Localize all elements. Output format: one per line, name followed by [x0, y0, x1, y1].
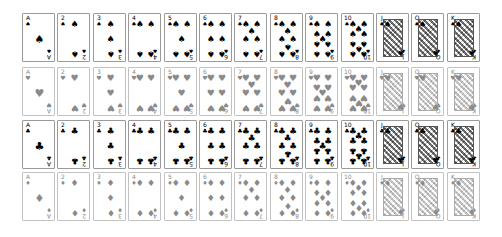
clubs-icon: ♣ [177, 141, 187, 150]
clubs-icon: ♣ [106, 156, 116, 165]
card-a-of-hearts: A♥A♥♥ [22, 67, 55, 116]
corner-index-bot: 2♣ [81, 155, 87, 167]
hearts-icon: ♥ [468, 102, 475, 110]
hearts-icon: ♥ [106, 103, 116, 112]
hearts-icon: ♥ [171, 73, 181, 82]
diamonds-icon: ♦ [359, 188, 369, 197]
card-4-of-spades: 4♠4♠♠♠♠♠ [128, 13, 161, 62]
hearts-icon: ♥ [384, 75, 391, 83]
corner-index-top: A♦ [25, 174, 31, 186]
spades-icon: ♠ [106, 19, 116, 28]
hearts-icon: ♥ [323, 73, 333, 82]
spades-icon: ♠ [177, 34, 187, 43]
clubs-icon: ♣ [397, 155, 404, 163]
card-j-of-spades: J♠J♠♠♠ [376, 13, 409, 62]
hearts-icon: ♥ [359, 103, 369, 112]
diamonds-icon: ♦ [35, 193, 45, 202]
hearts-icon: ♥ [419, 75, 426, 83]
spades-icon: ♠ [359, 29, 369, 38]
corner-index-top: 2♠ [60, 15, 66, 27]
hearts-icon: ♥ [312, 93, 322, 102]
diamonds-icon: ♦ [217, 208, 227, 217]
spades-icon: ♠ [81, 48, 87, 54]
hearts-icon: ♥ [217, 73, 227, 82]
spades-icon: ♠ [432, 48, 439, 56]
card-q-of-spades: Q♠Q♠♠♠ [411, 13, 444, 62]
hearts-icon: ♥ [70, 103, 80, 112]
hearts-icon: ♥ [206, 103, 216, 112]
corner-index-top: 3♦ [96, 174, 102, 186]
clubs-icon: ♣ [252, 141, 262, 150]
clubs-icon: ♣ [117, 155, 123, 161]
spades-icon: ♠ [312, 39, 322, 48]
spades-icon: ♠ [217, 19, 227, 28]
spades-icon: ♠ [46, 48, 52, 54]
diamonds-icon: ♦ [312, 208, 322, 217]
diamonds-icon: ♦ [106, 208, 116, 217]
card-9-of-hearts: 9♥9♥♥♥♥♥♥♥♥♥♥ [305, 67, 338, 116]
hearts-icon: ♥ [312, 103, 322, 112]
spades-icon: ♠ [312, 49, 322, 58]
card-4-of-hearts: 4♥4♥♥♥♥♥ [128, 67, 161, 116]
spades-icon: ♠ [348, 29, 358, 38]
spades-icon: ♠ [25, 21, 31, 27]
diamonds-icon: ♦ [70, 208, 80, 217]
hearts-icon: ♥ [217, 88, 227, 97]
hearts-icon: ♥ [432, 102, 439, 110]
diamonds-icon: ♦ [206, 193, 216, 202]
diamonds-icon: ♦ [182, 208, 192, 217]
hearts-icon: ♥ [397, 102, 404, 110]
diamonds-icon: ♦ [46, 207, 52, 213]
diamonds-icon: ♦ [146, 178, 156, 187]
card-7-of-hearts: 7♥7♥♥♥♥♥♥♥♥ [234, 67, 267, 116]
clubs-icon: ♣ [288, 156, 298, 165]
card-8-of-spades: 8♠8♠♠♠♠♠♠♠♠♠ [270, 13, 303, 62]
diamonds-icon: ♦ [348, 208, 358, 217]
diamonds-icon: ♦ [25, 180, 31, 186]
diamonds-icon: ♦ [171, 178, 181, 187]
corner-index-bot: A♥ [46, 102, 52, 114]
hearts-icon: ♥ [455, 75, 462, 83]
clubs-icon: ♣ [277, 156, 287, 165]
clubs-icon: ♣ [323, 146, 333, 155]
hearts-icon: ♥ [106, 88, 116, 97]
hearts-icon: ♥ [288, 103, 298, 112]
corner-index-bot: 2♦ [81, 207, 87, 219]
corner-index-top: 3♠ [96, 15, 102, 27]
spades-icon: ♠ [252, 34, 262, 43]
corner-index-top: 3♣ [96, 122, 102, 134]
diamonds-icon: ♦ [277, 208, 287, 217]
spades-icon: ♠ [106, 34, 116, 43]
clubs-icon: ♣ [359, 156, 369, 165]
corner-index-top: 2♥ [60, 69, 66, 81]
spades-icon: ♠ [312, 19, 322, 28]
hearts-icon: ♥ [171, 103, 181, 112]
clubs-icon: ♣ [106, 126, 116, 135]
spades-icon: ♠ [60, 21, 66, 27]
clubs-icon: ♣ [70, 156, 80, 165]
diamonds-icon: ♦ [171, 208, 181, 217]
spades-icon: ♠ [182, 49, 192, 58]
diamonds-icon: ♦ [206, 208, 216, 217]
spades-icon: ♠ [359, 49, 369, 58]
hearts-icon: ♥ [241, 88, 251, 97]
clubs-icon: ♣ [359, 136, 369, 145]
clubs-icon: ♣ [432, 155, 439, 163]
card-10-of-hearts: 10♥10♥♥♥♥♥♥♥♥♥♥♥ [341, 67, 374, 116]
corner-index-bot: 3♥ [117, 102, 123, 114]
hearts-icon: ♥ [252, 88, 262, 97]
hearts-icon: ♥ [35, 88, 45, 97]
spades-icon: ♠ [146, 49, 156, 58]
diamonds-icon: ♦ [206, 178, 216, 187]
clubs-icon: ♣ [171, 126, 181, 135]
card-9-of-spades: 9♠9♠♠♠♠♠♠♠♠♠♠ [305, 13, 338, 62]
card-q-of-diamonds: Q♦Q♦♦♦ [411, 172, 444, 221]
clubs-icon: ♣ [206, 126, 216, 135]
clubs-icon: ♣ [106, 141, 116, 150]
diamonds-icon: ♦ [455, 180, 462, 188]
diamonds-icon: ♦ [432, 207, 439, 215]
card-deck: A♠A♠♠2♠2♠♠♠3♠3♠♠♠♠4♠4♠♠♠♠♠5♠5♠♠♠♠♠♠6♠6♠♠… [0, 0, 502, 237]
clubs-icon: ♣ [312, 146, 322, 155]
clubs-icon: ♣ [419, 128, 426, 136]
spades-icon: ♠ [106, 49, 116, 58]
